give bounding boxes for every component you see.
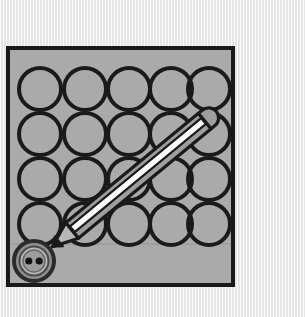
button-hole-right (36, 257, 43, 264)
illustration-scene (0, 0, 305, 317)
button-and-pencil-artwork (0, 0, 305, 317)
button-hole-left (25, 257, 32, 264)
sewing-button (14, 241, 54, 281)
